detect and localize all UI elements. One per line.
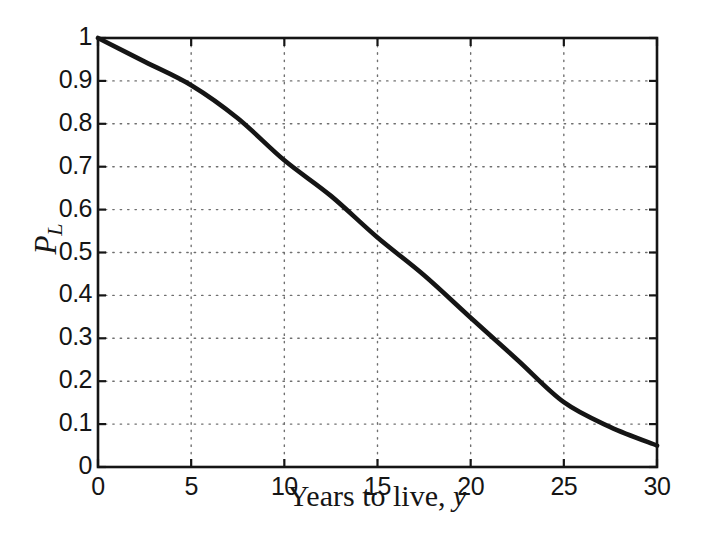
x-axis-label-variable: y (453, 479, 466, 512)
y-tick-label: 0.3 (59, 323, 92, 352)
plot-area (0, 0, 702, 550)
x-tick-label: 25 (550, 472, 577, 501)
y-tick-label: 0.2 (59, 366, 92, 395)
x-tick-label: 30 (644, 472, 671, 501)
figure-survival-probability-chart: 00.10.20.30.40.50.60.70.80.91 0510152025… (0, 0, 702, 550)
y-tick-label: 0 (79, 451, 92, 480)
y-tick-label: 1 (79, 22, 92, 51)
y-tick-label: 0.1 (59, 408, 92, 437)
y-axis-label-subscript: L (42, 223, 67, 235)
y-axis-label: PL (28, 223, 64, 254)
y-tick-label: 0.4 (59, 280, 92, 309)
x-tick-label: 5 (184, 472, 197, 501)
y-tick-label: 0.8 (59, 108, 92, 137)
y-tick-label: 0.6 (59, 194, 92, 223)
x-tick-label: 0 (91, 472, 104, 501)
y-tick-label: 0.7 (59, 151, 92, 180)
y-axis-label-main: P (28, 236, 63, 255)
y-tick-label: 0.9 (59, 65, 92, 94)
x-axis-label-text: Years to live, (288, 479, 453, 512)
x-axis-label: Years to live, y (288, 479, 467, 513)
